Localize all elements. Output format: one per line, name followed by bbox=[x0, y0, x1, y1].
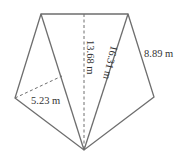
label-diagonal: 16.31 m bbox=[101, 45, 119, 81]
diagonal-right bbox=[84, 14, 128, 150]
label-right-side: 8.89 m bbox=[144, 48, 173, 59]
pentagon-diagram: 13.68 m 16.31 m 8.89 m 5.23 m bbox=[0, 0, 187, 156]
label-left-height: 5.23 m bbox=[31, 95, 60, 106]
diagonal-left bbox=[41, 14, 84, 150]
label-height: 13.68 m bbox=[85, 40, 96, 74]
